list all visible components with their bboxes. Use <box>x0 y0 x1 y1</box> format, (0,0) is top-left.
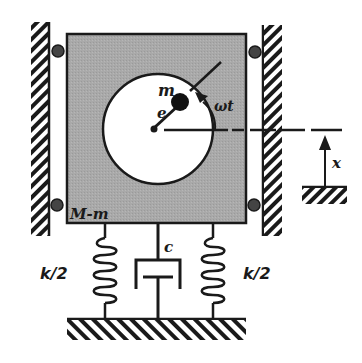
damping-label: c <box>164 238 173 256</box>
angle-label: ωt <box>214 98 234 114</box>
eccentricity-label: e <box>157 104 167 122</box>
left-wall <box>31 22 49 236</box>
spring-left-label: k/2 <box>40 264 68 283</box>
rotor-center-icon <box>151 126 158 133</box>
roller-top-left-icon <box>52 45 64 57</box>
left-spring <box>94 223 117 318</box>
roller-bottom-right-icon <box>248 199 260 211</box>
roller-top-right-icon <box>249 46 261 58</box>
displacement-label: x <box>331 154 342 172</box>
damper <box>136 223 180 318</box>
ground <box>67 319 246 340</box>
roller-bottom-left-icon <box>51 199 63 211</box>
spring-right-label: k/2 <box>243 264 271 283</box>
main-mass-label: M-m <box>69 205 109 223</box>
up-arrow-icon <box>319 135 331 150</box>
mass-label: m <box>158 81 175 100</box>
rotating-unbalance-diagram: m e ωt M-m x k/2 k/2 c <box>0 0 362 363</box>
right-spring <box>202 223 225 318</box>
